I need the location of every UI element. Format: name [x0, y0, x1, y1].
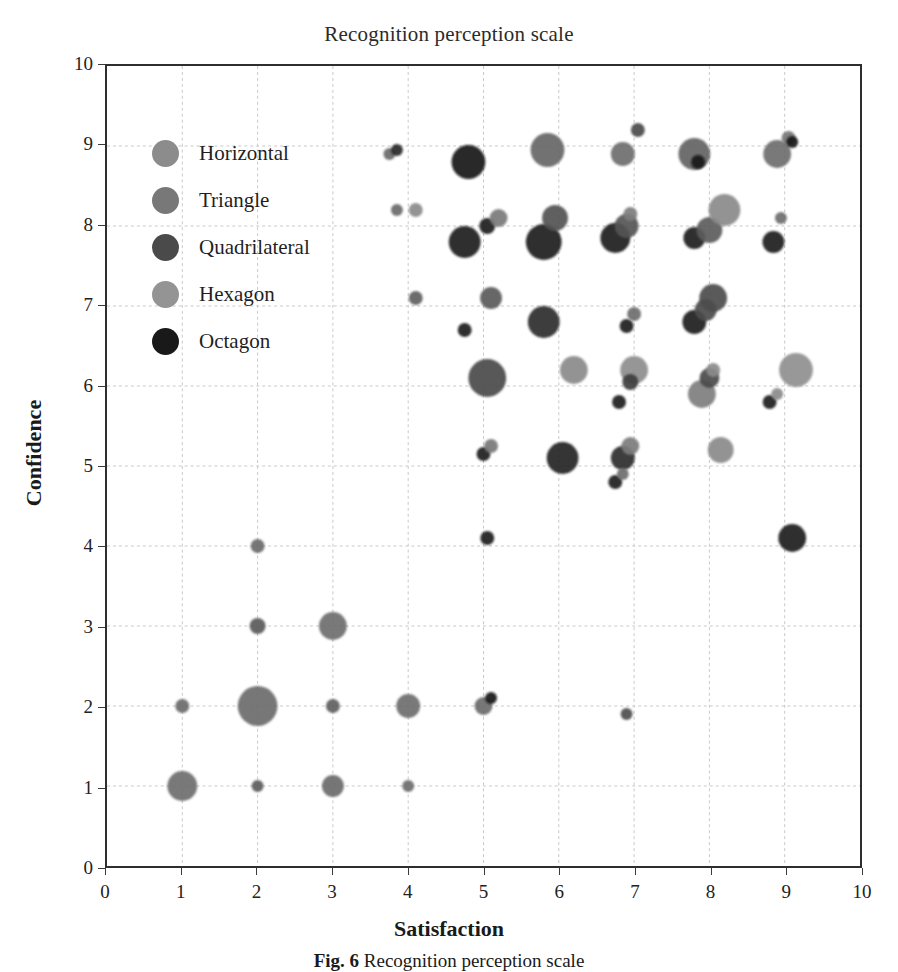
legend-item-hexagon[interactable]: Hexagon	[152, 271, 452, 318]
x-tick-label: 10	[839, 882, 885, 901]
x-tick-label: 9	[763, 882, 809, 901]
scatter-point	[480, 531, 494, 545]
figure-caption: Fig. 6 Recognition perception scale	[0, 950, 898, 972]
scatter-point	[458, 323, 472, 337]
scatter-point	[778, 524, 806, 552]
legend-item-octagon[interactable]: Octagon	[152, 318, 452, 365]
scatter-point	[627, 307, 641, 321]
legend-swatch-hexagon-icon	[152, 281, 179, 308]
x-tick-label: 6	[536, 882, 582, 901]
scatter-point	[452, 145, 486, 179]
y-tick-mark	[98, 546, 105, 547]
scatter-point	[449, 226, 481, 258]
y-tick-mark	[98, 788, 105, 789]
caption-label: Fig. 6	[314, 950, 359, 971]
legend: HorizontalTriangleQuadrilateralHexagonOc…	[152, 130, 452, 365]
scatter-point	[709, 194, 741, 226]
scatter-point	[560, 356, 588, 384]
scatter-point	[611, 142, 635, 166]
scatter-point	[326, 699, 340, 713]
x-tick-label: 4	[385, 882, 431, 901]
y-tick-label: 0	[47, 858, 93, 877]
y-tick-label: 3	[47, 617, 93, 636]
x-tick-mark	[105, 868, 106, 875]
scatter-point	[542, 205, 568, 231]
y-tick-mark	[98, 64, 105, 65]
scatter-point	[779, 353, 813, 387]
scatter-point	[691, 155, 705, 169]
scatter-point	[708, 437, 734, 463]
legend-item-quadrilateral[interactable]: Quadrilateral	[152, 224, 452, 271]
x-tick-label: 3	[309, 882, 355, 901]
x-tick-label: 7	[612, 882, 658, 901]
x-tick-label: 1	[158, 882, 204, 901]
legend-label: Quadrilateral	[199, 235, 310, 260]
y-tick-mark	[98, 627, 105, 628]
y-tick-mark	[98, 707, 105, 708]
y-tick-label: 1	[47, 778, 93, 797]
scatter-point	[762, 231, 784, 253]
scatter-point	[252, 780, 264, 792]
y-tick-label: 8	[47, 215, 93, 234]
y-tick-mark	[98, 466, 105, 467]
y-tick-mark	[98, 868, 105, 869]
scatter-point	[699, 284, 727, 312]
y-tick-label: 10	[47, 54, 93, 73]
scatter-point	[480, 287, 502, 309]
scatter-point	[528, 306, 560, 338]
x-tick-mark	[408, 868, 409, 875]
scatter-point	[396, 694, 420, 718]
x-tick-label: 2	[233, 882, 279, 901]
scatter-point	[251, 539, 265, 553]
scatter-point	[547, 442, 579, 474]
scatter-point	[631, 123, 645, 137]
y-tick-mark	[98, 144, 105, 145]
legend-label: Horizontal	[199, 141, 289, 166]
x-tick-mark	[256, 868, 257, 875]
scatter-point	[175, 699, 189, 713]
scatter-point	[402, 780, 414, 792]
x-tick-mark	[559, 868, 560, 875]
x-tick-mark	[181, 868, 182, 875]
y-tick-label: 9	[47, 134, 93, 153]
scatter-point	[490, 209, 508, 227]
scatter-point	[484, 439, 498, 453]
legend-item-triangle[interactable]: Triangle	[152, 177, 452, 224]
x-tick-mark	[711, 868, 712, 875]
legend-swatch-quadrilateral-icon	[152, 234, 179, 261]
x-tick-mark	[484, 868, 485, 875]
scatter-point	[621, 708, 633, 720]
legend-label: Triangle	[199, 188, 269, 213]
y-tick-mark	[98, 225, 105, 226]
chart-title: Recognition perception scale	[0, 22, 898, 47]
x-tick-label: 0	[82, 882, 128, 901]
scatter-point	[620, 319, 634, 333]
legend-item-horizontal[interactable]: Horizontal	[152, 130, 452, 177]
x-tick-mark	[332, 868, 333, 875]
x-axis-title: Satisfaction	[0, 916, 898, 942]
scatter-point	[623, 207, 637, 221]
y-tick-mark	[98, 305, 105, 306]
x-tick-label: 8	[688, 882, 734, 901]
scatter-point	[238, 686, 278, 726]
scatter-point	[617, 468, 629, 480]
y-tick-label: 5	[47, 456, 93, 475]
legend-label: Hexagon	[199, 282, 275, 307]
scatter-point	[531, 133, 565, 167]
y-axis-title: Confidence	[21, 373, 47, 533]
legend-label: Octagon	[199, 329, 270, 354]
scatter-point	[775, 212, 787, 224]
scatter-point	[771, 388, 783, 400]
scatter-point	[167, 771, 197, 801]
y-tick-label: 4	[47, 536, 93, 555]
scatter-point	[485, 692, 497, 704]
scatter-point	[322, 775, 344, 797]
x-tick-mark	[862, 868, 863, 875]
y-tick-mark	[98, 386, 105, 387]
x-tick-label: 5	[461, 882, 507, 901]
caption-text: Recognition perception scale	[364, 950, 585, 971]
y-tick-label: 7	[47, 295, 93, 314]
legend-swatch-horizontal-icon	[152, 140, 179, 167]
legend-swatch-octagon-icon	[152, 328, 179, 355]
